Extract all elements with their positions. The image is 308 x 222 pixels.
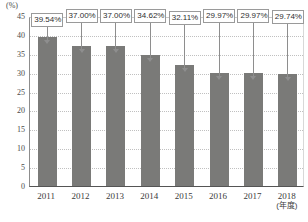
bar[interactable] bbox=[210, 73, 229, 186]
y-axis-unit-label: (%) bbox=[6, 1, 18, 10]
y-axis-tick-label: 45 bbox=[5, 13, 25, 21]
data-label-connector bbox=[115, 21, 116, 51]
data-label-connector bbox=[81, 21, 82, 51]
bar[interactable] bbox=[244, 73, 263, 186]
y-axis-tick-label: 30 bbox=[5, 70, 25, 78]
data-label-pointer bbox=[79, 49, 85, 53]
bar[interactable] bbox=[141, 55, 160, 186]
data-label: 37.00% bbox=[66, 9, 98, 23]
data-label-pointer bbox=[285, 77, 291, 81]
y-axis-tick-label: 0 bbox=[5, 183, 25, 191]
data-label: 29.97% bbox=[203, 9, 235, 23]
y-axis-tick-label: 40 bbox=[5, 32, 25, 40]
data-label-pointer bbox=[147, 58, 153, 62]
data-label-connector bbox=[253, 21, 254, 78]
data-label: 39.54% bbox=[31, 13, 63, 27]
y-axis-tick-label: 20 bbox=[5, 107, 25, 115]
data-label-pointer bbox=[182, 68, 188, 72]
data-label: 29.74% bbox=[272, 10, 304, 24]
y-axis-tick-label: 35 bbox=[5, 51, 25, 59]
data-label-connector bbox=[184, 23, 185, 70]
bar[interactable] bbox=[278, 74, 297, 186]
plot-area: 39.54%37.00%37.00%34.62%32.11%29.97%29.9… bbox=[29, 17, 304, 187]
bar[interactable] bbox=[72, 46, 91, 186]
data-label-connector bbox=[150, 21, 151, 60]
y-axis-tick-label: 5 bbox=[5, 164, 25, 172]
bar[interactable] bbox=[38, 37, 57, 186]
data-label-connector bbox=[219, 21, 220, 78]
y-axis-tick-label: 25 bbox=[5, 89, 25, 97]
bar-chart: (%) 39.54%37.00%37.00%34.62%32.11%29.97%… bbox=[0, 0, 308, 222]
data-label: 29.97% bbox=[237, 9, 269, 23]
x-axis-unit-label: (年度) bbox=[267, 201, 307, 210]
data-label-pointer bbox=[113, 49, 119, 53]
y-axis-tick-label: 15 bbox=[5, 126, 25, 134]
bar[interactable] bbox=[175, 65, 194, 186]
data-label-pointer bbox=[250, 76, 256, 80]
y-axis-tick-label: 10 bbox=[5, 145, 25, 153]
gridline bbox=[30, 36, 303, 37]
data-label: 32.11% bbox=[169, 11, 201, 25]
data-label: 37.00% bbox=[100, 9, 132, 23]
bar[interactable] bbox=[106, 46, 125, 186]
gridline bbox=[30, 55, 303, 56]
data-label-connector bbox=[287, 22, 288, 79]
data-label-pointer bbox=[44, 40, 50, 44]
data-label-pointer bbox=[216, 76, 222, 80]
data-label: 34.62% bbox=[134, 9, 166, 23]
x-axis-tick-label: 2018 bbox=[267, 191, 307, 201]
